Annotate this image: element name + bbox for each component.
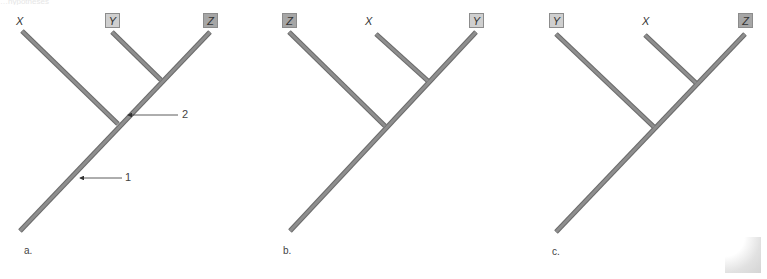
panel-label-b: b.	[283, 245, 291, 256]
taxon-x-label: X	[16, 15, 23, 27]
panel-label-c: c.	[552, 246, 560, 257]
taxon-z-box: Z	[203, 13, 218, 28]
taxon-x-label: X	[642, 15, 649, 27]
callout-label-1: 1	[125, 171, 131, 183]
taxon-y-box: Y	[105, 13, 120, 28]
page-curl-shadow	[725, 237, 761, 273]
taxon-z-box: Z	[282, 13, 297, 28]
taxon-x-label: X	[365, 15, 372, 27]
tree-c	[556, 34, 745, 232]
tree-b	[289, 32, 476, 231]
tree-a	[20, 31, 210, 231]
panel-label-a: a.	[24, 245, 32, 256]
callout-label-2: 2	[182, 108, 188, 120]
phylogenetic-trees-figure: …hypotheses	[0, 0, 767, 279]
taxon-y-box: Y	[549, 13, 564, 28]
taxon-z-box: Z	[738, 13, 753, 28]
taxon-y-box: Y	[469, 13, 484, 28]
tree-branches	[0, 0, 767, 279]
